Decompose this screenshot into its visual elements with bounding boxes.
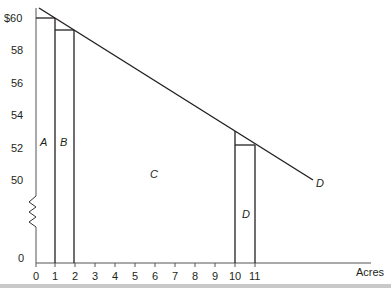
region-label-b: B [60, 136, 67, 148]
region-label-c: C [150, 168, 158, 180]
demand-chart: $60 58 56 54 52 50 0 0 1 2 3 4 5 6 7 8 9… [0, 0, 391, 288]
y-tick-56: 56 [11, 77, 23, 89]
y-axis-break-icon [29, 196, 36, 227]
bar-d [235, 131, 255, 263]
demand-curve [39, 8, 313, 180]
x-axis-ticks [36, 263, 255, 267]
x-tick-2: 2 [72, 270, 78, 282]
y-tick-0: 0 [18, 252, 24, 264]
y-tick-50: 50 [11, 174, 23, 186]
y-tick-52: 52 [11, 142, 23, 154]
x-tick-6: 6 [152, 270, 158, 282]
region-label-d-bar: D [242, 208, 250, 220]
x-tick-5: 5 [132, 270, 138, 282]
x-tick-11: 11 [249, 270, 260, 282]
x-tick-1: 1 [52, 270, 58, 282]
x-tick-8: 8 [192, 270, 198, 282]
x-axis-title: Acres [356, 266, 385, 278]
y-tick-54: 54 [11, 109, 23, 121]
x-tick-0: 0 [33, 270, 39, 282]
y-tick-60: $60 [4, 12, 22, 24]
bottom-border [0, 284, 391, 288]
x-tick-4: 4 [112, 270, 118, 282]
y-tick-58: 58 [11, 44, 23, 56]
x-tick-10: 10 [229, 270, 241, 282]
region-label-a: A [39, 136, 47, 148]
x-tick-9: 9 [212, 270, 218, 282]
demand-curve-label: D [316, 177, 324, 189]
x-tick-3: 3 [92, 270, 98, 282]
x-tick-7: 7 [172, 270, 178, 282]
